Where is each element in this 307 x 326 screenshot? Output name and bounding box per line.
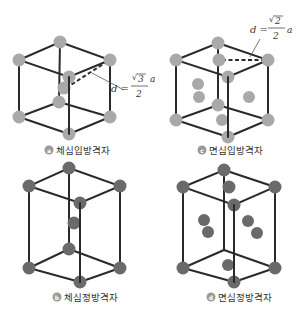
atom xyxy=(104,54,117,67)
atoms xyxy=(170,37,275,144)
caption-text: 체심정방격자 xyxy=(64,292,118,303)
svg-text:d: d xyxy=(209,294,213,301)
atom-face xyxy=(222,259,234,271)
leader-line xyxy=(250,39,260,57)
atom xyxy=(53,96,66,109)
formula-denominator: 2 xyxy=(135,89,142,99)
formula-fcc: d = √ 2 2 a xyxy=(250,15,292,41)
cube-edge xyxy=(29,268,80,282)
caption-fcc: c 면심입방격자 xyxy=(198,145,264,156)
atom-face xyxy=(193,91,205,103)
atom xyxy=(177,262,190,275)
formula-lhs: d = xyxy=(250,24,268,35)
svg-text:c: c xyxy=(200,147,204,154)
caption-bct: b 체심정방격자 xyxy=(53,292,119,303)
caption-text: 면심입방격자 xyxy=(209,145,263,156)
atom-face xyxy=(216,114,228,126)
panel-bcc: d = √ 3 2 a a 체심입방격자 xyxy=(13,36,156,156)
atom xyxy=(269,181,282,194)
caption-text: 면심정방격자 xyxy=(218,292,272,303)
atom xyxy=(23,262,36,275)
top-face xyxy=(29,168,120,203)
svg-text:a: a xyxy=(47,147,51,154)
atom xyxy=(269,262,282,275)
formula-denominator: 2 xyxy=(272,31,279,41)
atom xyxy=(63,162,76,175)
atom xyxy=(104,111,117,124)
atoms xyxy=(23,162,127,289)
cube-edge xyxy=(29,249,69,268)
atoms xyxy=(13,36,117,141)
atom xyxy=(177,181,190,194)
atom-face xyxy=(242,215,254,227)
panel-bct: b 체심정방격자 xyxy=(23,162,127,303)
caption-text: 체심입방격자 xyxy=(56,145,110,156)
atom xyxy=(13,54,26,67)
cube-edge xyxy=(69,249,120,268)
cube-edge xyxy=(59,102,110,117)
formula-bcc: d = √ 3 2 a xyxy=(111,73,155,99)
atom xyxy=(170,114,183,127)
atom xyxy=(114,180,127,193)
atom-face xyxy=(198,214,210,226)
formula-radicand: 2 xyxy=(274,16,281,26)
cube-edge xyxy=(228,120,268,137)
atom-face xyxy=(202,226,214,238)
atom xyxy=(54,36,67,49)
formula-variable: a xyxy=(287,25,292,35)
caption-fct: d 면심정방격자 xyxy=(207,292,273,303)
cube-edge xyxy=(69,117,110,134)
caption-bcc: a 체심입방격자 xyxy=(45,145,111,156)
atom xyxy=(13,111,26,124)
atom-face xyxy=(243,91,255,103)
atom xyxy=(23,180,36,193)
cube-edge xyxy=(176,105,218,120)
atom-face xyxy=(192,78,204,90)
cube-edge xyxy=(183,250,224,268)
atom xyxy=(212,37,225,50)
atom xyxy=(262,54,275,67)
atom xyxy=(218,164,231,177)
atom xyxy=(63,243,76,256)
panel-fct: d 면심정방격자 xyxy=(177,164,282,303)
formula-lhs: d = xyxy=(111,83,129,94)
panel-fcc: d = √ 2 2 a c 면심입방격자 xyxy=(170,15,293,156)
atom xyxy=(212,99,225,112)
atom xyxy=(114,262,127,275)
cube-edge xyxy=(19,117,69,134)
formula-radicand: 3 xyxy=(138,74,144,84)
atom xyxy=(170,54,183,67)
atom-face xyxy=(213,54,226,67)
formula-variable: a xyxy=(150,74,155,84)
atom-face xyxy=(223,181,236,194)
atom-face xyxy=(251,227,263,239)
crystal-lattice-diagram: d = √ 3 2 a a 체심입방격자 xyxy=(0,0,307,326)
svg-text:b: b xyxy=(55,294,60,301)
atom xyxy=(262,114,275,127)
top-face xyxy=(19,42,110,77)
atom-center xyxy=(68,217,81,230)
